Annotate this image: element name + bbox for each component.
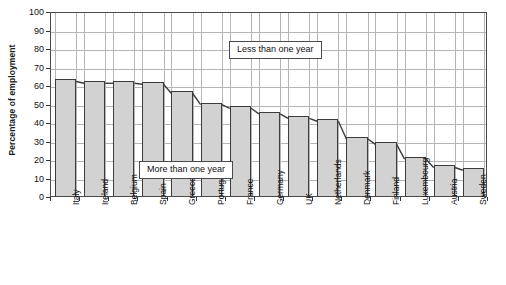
y-axis-title-text: Percentage of employment <box>7 44 17 155</box>
x-label-france: France <box>243 179 257 205</box>
x-label-germany: Germany <box>273 170 287 205</box>
gridline-vertical-11-1 <box>397 13 398 196</box>
y-tick-mark-90 <box>46 31 50 32</box>
connector-segment-13 <box>455 167 463 170</box>
y-tick-label-10: 10 <box>20 174 44 183</box>
y-tick-mark-80 <box>46 49 50 50</box>
y-tick-mark-20 <box>46 160 50 161</box>
gridline-vertical-10-1 <box>368 13 369 196</box>
x-label-greece: Greece <box>185 177 199 205</box>
x-label-finland: Finland <box>389 177 403 205</box>
x-label-luxembourg: Luxembourg <box>418 158 432 205</box>
y-tick-label-70: 70 <box>20 63 44 72</box>
y-tick-label-0: 0 <box>20 193 44 202</box>
connector-segment-0 <box>76 81 84 83</box>
annotation-more-than-one-year: More than one year <box>139 161 233 179</box>
y-axis-tick-labels: 0102030405060708090100 <box>20 0 44 210</box>
bar-italy <box>55 79 76 196</box>
x-label-netherlands: Netherlands <box>331 159 345 205</box>
x-label-austria: Austria <box>447 179 461 205</box>
y-tick-label-20: 20 <box>20 156 44 165</box>
gridline-horizontal-90 <box>51 32 486 33</box>
bar-spain <box>142 82 163 196</box>
gridline-horizontal-70 <box>51 69 486 70</box>
gridline-vertical-13-1 <box>455 13 456 196</box>
y-tick-label-40: 40 <box>20 119 44 128</box>
annotation-less-than-one-year: Less than one year <box>229 41 322 59</box>
gridline-vertical-1-1 <box>105 13 106 196</box>
x-label-ireland: Ireland <box>98 179 112 205</box>
x-tick-mark-0 <box>50 197 51 201</box>
connector-segment-2 <box>134 83 142 84</box>
y-tick-label-50: 50 <box>20 100 44 109</box>
connector-segment-11 <box>397 144 405 159</box>
y-tick-mark-50 <box>46 105 50 106</box>
x-label-spain: Spain <box>156 183 170 205</box>
y-tick-mark-60 <box>46 86 50 87</box>
y-tick-mark-10 <box>46 179 50 180</box>
x-label-italy: Italy <box>69 189 83 205</box>
x-label-denmark: Denmark <box>360 171 374 205</box>
connector-segment-8 <box>309 118 317 121</box>
connector-segment-6 <box>251 108 259 114</box>
y-tick-mark-70 <box>46 68 50 69</box>
connector-segment-7 <box>280 114 288 119</box>
y-tick-label-100: 100 <box>20 8 44 17</box>
y-tick-label-60: 60 <box>20 82 44 91</box>
x-label-uk: UK <box>302 193 316 205</box>
gridline-vertical-0-1 <box>76 13 77 196</box>
y-tick-mark-40 <box>46 123 50 124</box>
y-tick-mark-30 <box>46 142 50 143</box>
y-tick-label-30: 30 <box>20 137 44 146</box>
connector-segment-3 <box>164 84 172 93</box>
x-axis-category-labels: ItalyIrelandBelgiumSpainGreecePortugalFr… <box>50 203 487 283</box>
x-label-sweden: Sweden <box>476 174 490 205</box>
chart-figure: Percentage of employment 010203040506070… <box>0 0 506 285</box>
gridline-vertical-14-1 <box>484 13 485 196</box>
y-tick-mark-0 <box>46 197 50 198</box>
y-tick-mark-100 <box>46 12 50 13</box>
connector-segment-4 <box>193 93 201 104</box>
y-tick-label-80: 80 <box>20 45 44 54</box>
gridline-vertical-2-1 <box>134 13 135 196</box>
y-tick-label-90: 90 <box>20 26 44 35</box>
bar-uk <box>288 116 309 196</box>
